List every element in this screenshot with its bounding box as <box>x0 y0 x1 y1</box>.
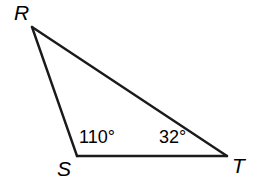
angle-label-s: 110° <box>79 128 115 146</box>
triangle-figure: R S T 110° 32° <box>0 0 258 192</box>
vertex-label-r: R <box>14 2 29 23</box>
vertex-label-s: S <box>57 158 71 179</box>
side-rs <box>32 27 77 156</box>
triangle-drawing <box>0 0 258 192</box>
angle-label-t: 32° <box>159 128 186 146</box>
side-rt <box>32 27 227 156</box>
vertex-label-t: T <box>232 155 245 176</box>
